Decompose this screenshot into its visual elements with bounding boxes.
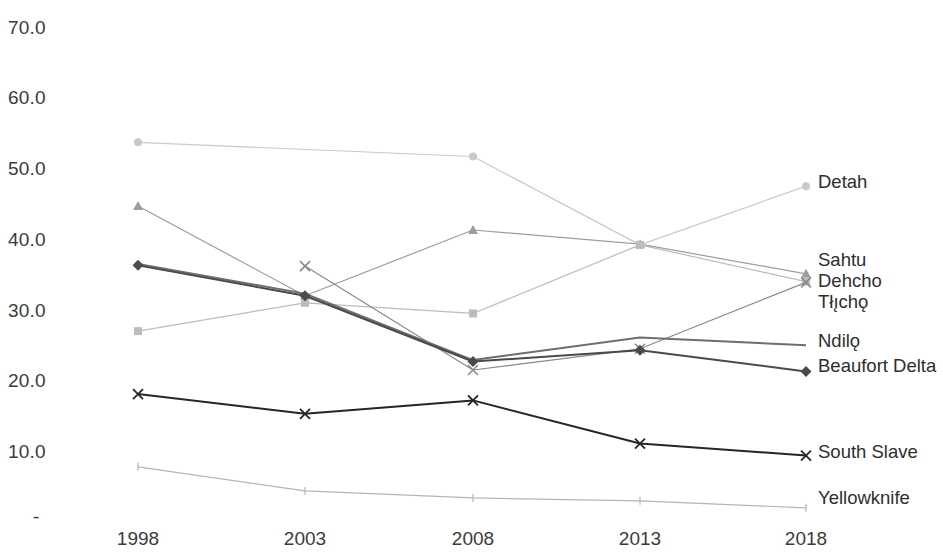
series-line [138,394,806,456]
series-label-beaufort-delta: Beaufort Delta [818,357,936,376]
series-marker [133,260,144,271]
series-label-tlicho: Tłı̨chǫ [818,293,868,312]
series-marker [134,327,142,335]
plot-area [0,0,943,554]
series-sahtu [133,201,811,300]
series-marker [469,309,477,317]
series-label-dehcho: Dehcho [818,272,882,291]
series-label-sahtu: Sahtu [818,251,866,270]
series-yellowknife [138,463,806,512]
series-marker [635,345,646,356]
series-marker [469,152,477,160]
series-marker [133,201,143,210]
series-line [138,467,806,508]
series-marker [468,225,478,234]
series-marker [134,138,142,146]
series-south-slave [133,389,811,461]
series-marker [300,261,310,271]
series-line [305,266,806,370]
series-label-south-slave: South Slave [818,443,918,462]
series-label-ndilo: Ndilǫ [818,332,860,351]
series-line [138,245,806,331]
series-layer [133,138,812,512]
series-t-ch- [300,261,811,375]
line-chart: 70.0 60.0 50.0 40.0 30.0 20.0 10.0 - 199… [0,0,943,554]
series-marker [802,182,810,190]
series-marker [801,366,812,377]
series-beaufort-delta [133,260,812,377]
series-marker [636,241,644,249]
series-label-yellowknife: Yellowknife [818,489,910,508]
series-label-detah: Detah [818,173,867,192]
